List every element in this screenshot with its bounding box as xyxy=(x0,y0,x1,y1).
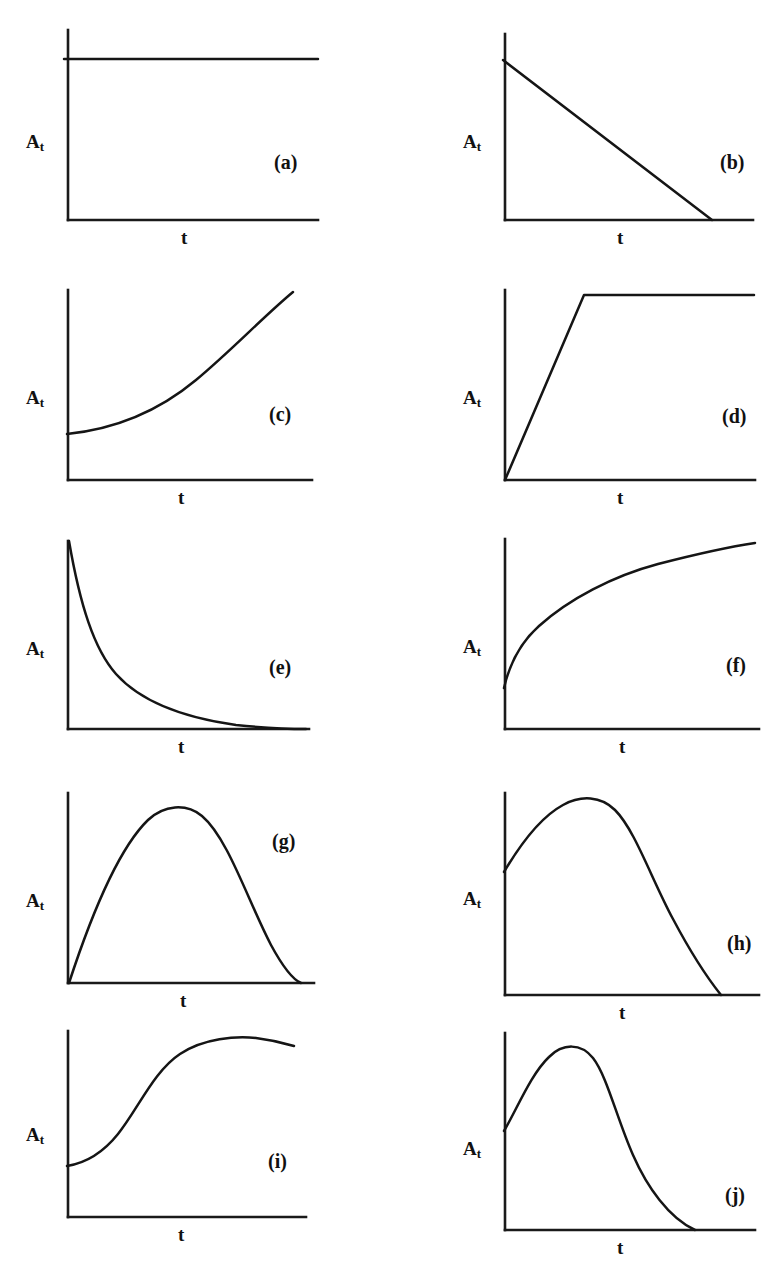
panel-tag-c: (c) xyxy=(269,404,291,424)
y-axis-label-i-text: A xyxy=(26,1124,40,1145)
y-axis-label-g-sub: t xyxy=(40,898,44,913)
y-axis-label-d-text: A xyxy=(463,387,477,408)
y-axis-label-d-sub: t xyxy=(477,395,481,410)
x-axis-label-g: t xyxy=(180,991,186,1010)
x-axis-label-h: t xyxy=(619,1003,625,1022)
panel-tag-d: (d) xyxy=(722,406,746,426)
panel-tag-b: (b) xyxy=(720,152,744,172)
curve-i xyxy=(67,1037,294,1166)
y-axis-label-f-sub: t xyxy=(477,644,481,659)
chart-panel-a: At t (a) xyxy=(56,24,356,254)
panel-tag-a: (a) xyxy=(274,152,297,172)
y-axis-label-h-sub: t xyxy=(477,896,481,911)
chart-panel-e: At t (e) xyxy=(56,531,356,761)
curve-e xyxy=(69,541,306,729)
chart-panel-d: At t (d) xyxy=(493,282,782,512)
chart-panel-f: At t (f) xyxy=(493,531,782,761)
x-axis-label-c: t xyxy=(178,488,184,507)
x-axis-label-i: t xyxy=(178,1225,184,1244)
y-axis-label-f: At xyxy=(463,637,481,658)
x-axis-label-f: t xyxy=(619,737,625,756)
panel-tag-g: (g) xyxy=(272,831,295,851)
figure-panel-grid: At t (a) At t (b) At t (c) xyxy=(0,0,782,1286)
panel-tag-h: (h) xyxy=(727,933,751,953)
curve-g xyxy=(69,807,301,983)
y-axis-label-c-sub: t xyxy=(40,395,44,410)
y-axis-label-a: At xyxy=(26,132,44,153)
y-axis-label-j-sub: t xyxy=(477,1146,481,1161)
y-axis-label-j-text: A xyxy=(463,1138,477,1159)
curve-h xyxy=(504,798,721,995)
y-axis-label-b-sub: t xyxy=(477,139,481,154)
y-axis-label-e-text: A xyxy=(26,638,40,659)
y-axis-label-f-text: A xyxy=(463,636,477,657)
panel-tag-e: (e) xyxy=(269,657,291,677)
panel-tag-i: (i) xyxy=(268,1151,287,1171)
curve-j xyxy=(504,1047,695,1230)
y-axis-label-c-text: A xyxy=(26,387,40,408)
panel-tag-f: (f) xyxy=(726,655,746,675)
y-axis-label-c: At xyxy=(26,388,44,409)
curve-b xyxy=(503,60,712,220)
chart-panel-g: At t (g) xyxy=(56,781,356,1016)
y-axis-label-a-text: A xyxy=(26,131,40,152)
y-axis-label-i: At xyxy=(26,1125,44,1146)
curve-d xyxy=(505,295,754,480)
chart-panel-b: At t (b) xyxy=(493,24,782,254)
chart-panel-i: At t (i) xyxy=(56,1021,356,1256)
chart-panel-c: At t (c) xyxy=(56,282,356,512)
y-axis-label-i-sub: t xyxy=(40,1132,44,1147)
y-axis-label-b-text: A xyxy=(463,131,477,152)
y-axis-label-j: At xyxy=(463,1139,481,1160)
x-axis-label-e: t xyxy=(178,737,184,756)
y-axis-label-e-sub: t xyxy=(40,646,44,661)
y-axis-label-b: At xyxy=(463,132,481,153)
curve-c xyxy=(67,292,293,434)
y-axis-label-e: At xyxy=(26,639,44,660)
panel-tag-j: (j) xyxy=(725,1185,745,1205)
x-axis-label-d: t xyxy=(617,488,623,507)
y-axis-label-h: At xyxy=(463,889,481,910)
curve-f xyxy=(504,543,755,688)
y-axis-label-g: At xyxy=(26,891,44,912)
chart-panel-j: At t (j) xyxy=(493,1021,782,1256)
chart-panel-h: At t (h) xyxy=(493,781,782,1016)
y-axis-label-d: At xyxy=(463,388,481,409)
y-axis-label-a-sub: t xyxy=(40,139,44,154)
y-axis-label-h-text: A xyxy=(463,888,477,909)
x-axis-label-b: t xyxy=(617,228,623,247)
x-axis-label-j: t xyxy=(617,1238,623,1257)
y-axis-label-g-text: A xyxy=(26,890,40,911)
x-axis-label-a: t xyxy=(181,228,187,247)
